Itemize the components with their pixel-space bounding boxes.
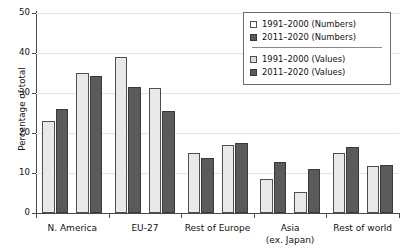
bar — [260, 179, 273, 213]
y-tick-label: 10 — [0, 168, 30, 177]
x-tick-mark — [399, 214, 400, 218]
x-tick-label: Rest of Europe — [181, 222, 254, 234]
bar — [308, 169, 321, 213]
y-tick-label: 50 — [0, 8, 30, 17]
bar — [76, 73, 89, 213]
bar — [115, 57, 128, 213]
swatch-numbers-dark-icon — [250, 34, 257, 41]
bar-chart: Percentage of total 01020304050 N. Ameri… — [0, 0, 402, 251]
y-tick-label: 30 — [0, 88, 30, 97]
bar — [346, 147, 359, 213]
x-tick-label-sub: (ex. Japan) — [254, 234, 327, 246]
y-tick-label: 20 — [0, 128, 30, 137]
bar — [162, 111, 175, 213]
y-tick-mark — [32, 13, 36, 14]
y-tick-mark — [32, 173, 36, 174]
legend-separator — [252, 47, 382, 48]
bar — [333, 153, 346, 213]
x-tick-mark — [109, 214, 110, 218]
legend-item-values-2011-2020: 2011–2020 (Values) — [250, 66, 384, 78]
y-tick-label: 0 — [0, 208, 30, 217]
legend-item-values-1991-2000: 1991–2000 (Values) — [250, 53, 384, 65]
x-tick-label: N. America — [36, 222, 109, 234]
legend-label: 1991–2000 (Values) — [262, 55, 345, 63]
chart-legend: 1991–2000 (Numbers) 2011–2020 (Numbers) … — [243, 12, 391, 85]
y-tick-mark — [32, 133, 36, 134]
legend-label: 2011–2020 (Numbers) — [262, 33, 356, 41]
x-tick-mark — [36, 214, 37, 218]
bar — [188, 153, 201, 213]
bar — [201, 158, 214, 213]
bar — [367, 166, 380, 213]
x-tick-label: EU-27 — [109, 222, 182, 234]
x-axis-line — [36, 213, 400, 214]
bar — [42, 121, 55, 213]
x-tick-mark — [181, 214, 182, 218]
legend-item-numbers-1991-2000: 1991–2000 (Numbers) — [250, 18, 384, 30]
bar — [56, 109, 69, 213]
bar — [222, 145, 235, 213]
legend-label: 2011–2020 (Values) — [262, 68, 345, 76]
x-tick-label: Rest of world — [326, 222, 399, 234]
bar — [90, 76, 103, 213]
x-tick-mark — [326, 214, 327, 218]
swatch-values-dark-icon — [250, 69, 257, 76]
bar — [128, 87, 141, 213]
bar — [294, 192, 307, 213]
bar — [235, 143, 248, 213]
swatch-numbers-light-icon — [250, 21, 257, 28]
legend-item-numbers-2011-2020: 2011–2020 (Numbers) — [250, 31, 384, 43]
x-tick-mark — [254, 214, 255, 218]
y-tick-mark — [32, 53, 36, 54]
bar — [274, 162, 287, 213]
bar — [380, 165, 393, 213]
x-tick-label: Asia(ex. Japan) — [254, 222, 327, 246]
swatch-values-light-icon — [250, 56, 257, 63]
bar — [149, 88, 162, 213]
legend-label: 1991–2000 (Numbers) — [262, 20, 356, 28]
y-tick-mark — [32, 93, 36, 94]
y-tick-label: 40 — [0, 48, 30, 57]
